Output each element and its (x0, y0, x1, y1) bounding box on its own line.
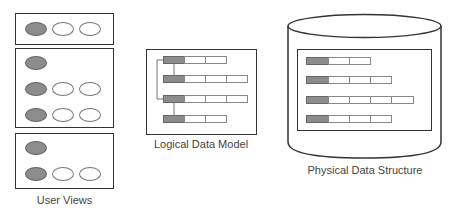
physical-structure-label: Physical Data Structure (290, 164, 440, 176)
